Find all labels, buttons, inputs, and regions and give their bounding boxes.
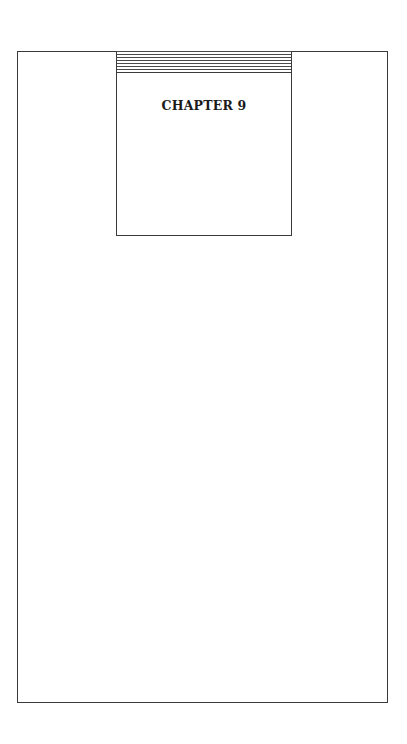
chapter-header-box: CHAPTER 9 bbox=[116, 51, 292, 236]
chapter-heading: CHAPTER 9 bbox=[117, 98, 291, 113]
decorative-stripes bbox=[117, 51, 291, 73]
